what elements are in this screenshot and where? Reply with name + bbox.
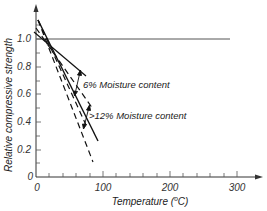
- y-tick-labels: 1.0 0.8 0.6 0.4 0.2 0: [17, 33, 33, 182]
- annotation-12pct-moisture: >12% Moisture content: [89, 110, 187, 121]
- x-axis-arrow-icon: [255, 175, 263, 180]
- y-ticks: [36, 25, 41, 163]
- y-tick-label: 0: [27, 171, 33, 182]
- y-tick-label: 0.6: [17, 88, 31, 99]
- line-6pct-dashed: [36, 28, 93, 109]
- line-12pct-dashed-lower: [38, 20, 93, 162]
- y-axis-arrow-icon: [34, 4, 39, 12]
- y-tick-label: 0.2: [17, 144, 31, 155]
- chart: 1.0 0.8 0.6 0.4 0.2 0 0 100 200 300 Rela…: [0, 0, 267, 211]
- x-ticks: [49, 171, 237, 177]
- y-axis-title: Relative compressive strength: [3, 38, 14, 172]
- y-tick-label: 0.4: [17, 116, 31, 127]
- x-tick-label: 100: [95, 182, 112, 193]
- x-tick-label: 0: [34, 182, 40, 193]
- x-axis-title: Temperature (oC): [112, 195, 189, 207]
- x-tick-label: 200: [161, 182, 179, 193]
- series-lines: [34, 20, 98, 162]
- annotation-6pct-moisture: 6% Moisture content: [83, 79, 170, 90]
- x-tick-labels: 0 100 200 300: [34, 182, 246, 193]
- y-tick-label: 0.8: [17, 61, 31, 72]
- x-tick-label: 300: [229, 182, 246, 193]
- y-tick-label: 1.0: [17, 33, 31, 44]
